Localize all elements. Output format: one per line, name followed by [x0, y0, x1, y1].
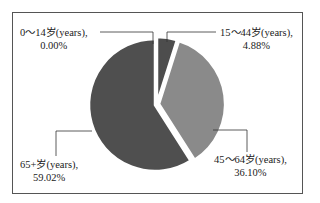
- label-65-plus: 65+岁(years), 59.02%: [20, 158, 78, 184]
- label-15-44: 15～44岁(years), 4.88%: [220, 26, 293, 52]
- label-45-64: 45～64岁(years), 36.10%: [214, 153, 287, 179]
- label-0-14: 0～14岁(years), 0.00%: [20, 26, 88, 52]
- leader-65-plus: [56, 131, 92, 156]
